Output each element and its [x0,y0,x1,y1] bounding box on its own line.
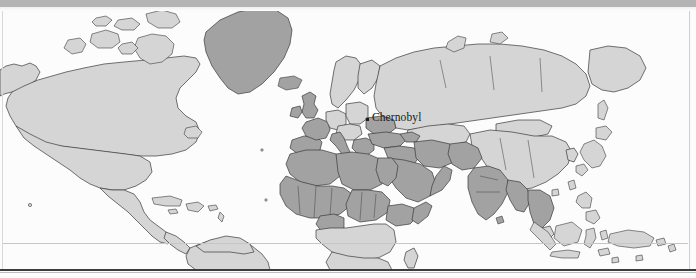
island-halmahera [600,230,608,240]
island-sulawesi [584,228,596,248]
island-philippines-mindanao [586,210,600,224]
region-mexico [100,188,172,244]
island-japan-kyushu [576,164,588,176]
region-united-kingdom [302,92,318,118]
island-japan-hokkaido [596,126,612,140]
island-cuba [152,196,182,206]
island-arctic-small-a [92,16,112,26]
island-sri-lanka [496,216,504,224]
island-java [550,250,580,258]
region-india [468,166,508,220]
equator-gridline [2,243,688,244]
island-azores-speck [261,149,263,151]
island-iceland [278,76,302,90]
region-scandinavia [330,56,362,108]
island-lesser-antilles [218,212,224,222]
island-newfoundland [184,126,202,138]
island-victoria [90,30,120,48]
island-severnaya-zemlya [490,32,508,44]
island-taiwan [568,180,576,190]
island-new-guinea [608,230,654,248]
world-map-figure: Chernobyl [0,0,696,278]
island-devon [114,18,140,30]
island-new-britain [656,238,666,246]
frame-bottom-rule [0,269,696,271]
island-sakhalin [598,100,608,120]
region-madagascar-tip [404,248,418,268]
region-venezuela-colombia [196,236,254,254]
island-hawaii-speck [28,203,31,206]
island-puerto-rico [208,205,218,211]
frame-right-edge [689,11,690,269]
frame-left-edge [2,11,3,269]
island-pacific-speck-a [612,257,619,263]
region-ireland [290,106,302,118]
island-banks [64,38,86,54]
island-hispaniola [186,202,204,212]
region-poland-baltics [346,102,368,124]
region-russia [374,44,590,130]
island-solomon [668,244,676,252]
region-central-africa [316,224,396,260]
island-timor [598,248,610,256]
island-jamaica [168,209,178,214]
island-pacific-speck-b [636,255,643,261]
island-arctic-small-b [118,42,138,54]
frame-bottom-rule-secondary [0,272,696,273]
island-ellesmere [146,10,180,28]
region-korea [566,148,578,162]
region-siberia-northeast [588,46,646,92]
island-hainan [552,189,559,196]
island-philippines-luzon [576,192,592,208]
region-sudan-chad [346,190,390,222]
region-greenland [204,8,292,94]
world-map-canvas [0,0,696,278]
frame-top-shade [0,7,696,11]
region-somalia [412,202,432,224]
region-thailand-indochina [528,190,554,228]
island-cape-verde-speck [265,199,267,201]
